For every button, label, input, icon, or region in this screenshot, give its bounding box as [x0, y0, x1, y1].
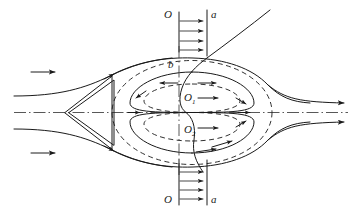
figure-root: O a O a b O 1 O 2 — [0, 0, 358, 219]
label-vortex-center-O1: O 1 — [184, 91, 196, 106]
velocity-profile-arrows-top — [180, 21, 203, 50]
label-O1-subscript: 1 — [192, 98, 196, 106]
flow-diagram: O a O a b O 1 O 2 — [0, 0, 358, 219]
label-O2-base: O — [184, 123, 192, 135]
triangular-wedge — [65, 76, 114, 149]
wake-boundary-lower — [110, 122, 310, 167]
wake-boundary-upper — [110, 58, 310, 103]
label-separation-point-b: b — [168, 58, 174, 70]
label-section-top-left: O — [164, 8, 172, 20]
label-section-bottom-left: O — [164, 193, 172, 205]
velocity-profile-arrows-bottom — [180, 172, 203, 199]
label-section-top-right: a — [211, 8, 217, 20]
label-O1-base: O — [184, 91, 192, 103]
label-section-bottom-right: a — [211, 193, 217, 205]
label-O2-subscript: 2 — [192, 130, 196, 138]
velocity-distribution-s-curve — [180, 58, 207, 172]
